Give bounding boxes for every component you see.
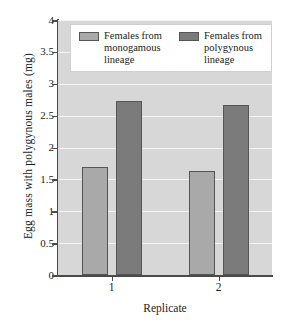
y-axis-tick-mark — [52, 84, 58, 86]
y-axis-tick-label: 4 — [26, 15, 54, 26]
y-axis-tick-mark — [52, 243, 58, 245]
bar — [82, 167, 108, 275]
legend-swatch-monogamous-icon — [79, 32, 99, 41]
y-axis-tick-label: 1.5 — [26, 174, 54, 185]
y-axis-tick-mark — [52, 148, 58, 150]
y-axis-tick-label: 1 — [26, 206, 54, 217]
y-axis-tick-mark — [52, 179, 58, 181]
y-axis-tick-label: 0 — [26, 270, 54, 281]
bar — [116, 101, 142, 275]
bar-chart-figure: Egg mass with polygynous males (mg) 00.5… — [0, 0, 297, 329]
legend-entry-monogamous: Females from monogamous lineage — [71, 30, 171, 71]
y-axis-tick-mark — [52, 211, 58, 213]
x-axis-tick-mark — [219, 276, 221, 281]
gridline — [58, 20, 272, 21]
legend-label-polygynous: Females from polygynous lineage — [204, 30, 262, 65]
legend-swatch-polygynous-icon — [179, 32, 199, 41]
y-axis-tick-mark — [52, 20, 58, 22]
y-axis-tick-labels: 00.511.522.533.54 — [26, 20, 54, 275]
x-axis-tick-label: 2 — [199, 281, 239, 293]
legend-entry-polygynous: Females from polygynous lineage — [171, 30, 271, 71]
chart-legend: Females from monogamous lineage Females … — [70, 24, 272, 72]
y-axis-tick-label: 2.5 — [26, 110, 54, 121]
y-axis-tick-mark — [52, 275, 58, 277]
x-axis-title: Replicate — [58, 302, 272, 314]
x-axis-line — [57, 275, 273, 277]
y-axis-tick-mark — [52, 52, 58, 54]
y-axis-tick-label: 3.5 — [26, 46, 54, 57]
y-axis-tick-label: 2 — [26, 142, 54, 153]
y-axis-tick-mark — [52, 116, 58, 118]
y-axis-tick-label: 0.5 — [26, 238, 54, 249]
bar — [223, 105, 249, 275]
bar — [189, 171, 215, 275]
gridline — [58, 84, 272, 85]
legend-label-monogamous: Females from monogamous lineage — [104, 30, 162, 65]
x-axis-tick-label: 1 — [92, 281, 132, 293]
y-axis-tick-label: 3 — [26, 78, 54, 89]
x-axis-tick-mark — [112, 276, 114, 281]
